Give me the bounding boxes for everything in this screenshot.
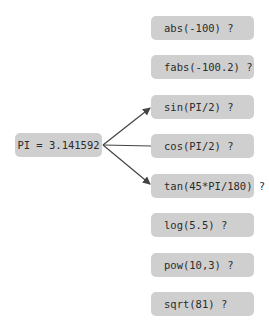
arrow-to-tan [103, 145, 150, 184]
function-node-sqrt: sqrt(81) ? [151, 292, 254, 316]
function-node-log: log(5.5) ? [151, 213, 254, 237]
function-node-pow: pow(10,3) ? [151, 253, 254, 277]
connector-arrows [0, 0, 269, 332]
function-node-sin: sin(PI/2) ? [151, 95, 254, 119]
pi-source-node: PI = 3.141592 [15, 133, 102, 157]
function-node-abs: abs(-100) ? [151, 16, 254, 40]
line-to-cos [103, 145, 151, 146]
function-node-fabs: fabs(-100.2) ? [151, 55, 254, 79]
function-node-cos: cos(PI/2) ? [151, 134, 254, 158]
arrow-to-sin [103, 108, 150, 145]
function-node-tan: tan(45*PI/180) ? [151, 174, 254, 198]
